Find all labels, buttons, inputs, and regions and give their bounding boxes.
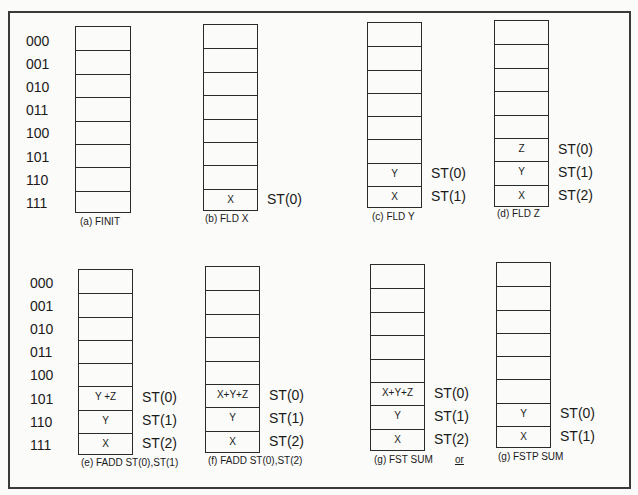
stack-cell: [76, 167, 130, 190]
stack-cell: [79, 340, 132, 363]
stack-box: ZYX: [494, 20, 549, 207]
st-register-label: ST(0): [558, 142, 593, 156]
st-register-label: ST(1): [269, 411, 304, 425]
st-register-label: ST(2): [142, 436, 177, 450]
stack-cell: X: [204, 189, 257, 212]
stack-cell: Y: [371, 405, 424, 428]
stack-cell: [79, 293, 132, 316]
stack-box: X: [203, 24, 258, 211]
stack-cell: [495, 91, 548, 114]
address-label: 001: [26, 57, 49, 71]
stack-cell: [79, 363, 132, 386]
stack-cell: [368, 70, 421, 93]
stack-cell: [206, 337, 259, 360]
st-register-label: ST(2): [558, 188, 593, 202]
stack-cell: X: [368, 186, 421, 209]
stack-cell: [79, 270, 132, 293]
address-label: 000: [26, 34, 49, 48]
stack-cell: [76, 27, 130, 50]
address-label: 011: [26, 103, 48, 117]
address-label: 100: [26, 126, 49, 140]
stack-caption: (a) FINIT: [80, 217, 120, 227]
stack-caption: (g) FST SUM: [374, 455, 433, 465]
stack-cell: [76, 97, 130, 120]
stack-cell: [368, 116, 421, 139]
stack-cell: [206, 267, 259, 290]
stack-cell: [497, 333, 550, 356]
stack-cell: [495, 44, 548, 67]
stack-cell: X: [371, 429, 424, 452]
stack-box: X+Y+ZYX: [205, 266, 260, 453]
stack-cell: X: [497, 426, 550, 449]
stack-cell: [206, 361, 259, 384]
st-register-label: ST(0): [142, 390, 177, 404]
stack-cell: [495, 115, 548, 138]
st-register-label: ST(1): [558, 165, 593, 179]
st-register-label: ST(0): [267, 192, 302, 206]
stack-cell: X+Y+Z: [206, 384, 259, 407]
stack-cell: [371, 265, 424, 288]
st-register-label: ST(1): [142, 413, 177, 427]
address-label: 110: [26, 173, 48, 187]
stack-cell: [371, 359, 424, 382]
stack-cell: [368, 139, 421, 162]
address-label: 001: [30, 299, 53, 313]
stack-cell: [497, 310, 550, 333]
address-label: 110: [30, 415, 52, 429]
stack-cell: [204, 25, 257, 48]
address-label: 010: [26, 80, 49, 94]
stack-cell: [76, 74, 130, 97]
stack-cell: [204, 48, 257, 71]
st-register-label: ST(1): [434, 409, 469, 423]
stack-cell: X: [206, 431, 259, 454]
st-register-label: ST(2): [269, 434, 304, 448]
stack-box: YX: [367, 22, 422, 208]
stack-box: X+Y+ZYX: [370, 264, 425, 451]
stack-cell: X: [495, 185, 548, 208]
stack-caption: (c) FLD Y: [372, 212, 415, 222]
st-register-label: ST(1): [431, 189, 466, 203]
stack-box: Y +ZYX: [78, 269, 133, 455]
address-label: 000: [30, 276, 53, 290]
stack-cell: [497, 379, 550, 402]
stack-caption: (d) FLD Z: [497, 209, 540, 219]
stack-cell: [497, 356, 550, 379]
stack-cell: [206, 314, 259, 337]
stack-box: YX: [496, 262, 551, 448]
stack-cell: [497, 263, 550, 286]
stack-caption: (b) FLD X: [205, 214, 248, 224]
stack-cell: [204, 72, 257, 95]
stack-cell: X+Y+Z: [371, 382, 424, 405]
stack-cell: [497, 286, 550, 309]
stack-caption: (g) FSTP SUM: [498, 452, 563, 462]
st-register-label: ST(1): [560, 429, 595, 443]
address-label: 011: [30, 345, 52, 359]
st-register-label: ST(0): [434, 386, 469, 400]
stack-cell: [368, 46, 421, 69]
address-label: 101: [30, 392, 53, 406]
stack-cell: X: [79, 433, 132, 456]
stack-cell: [204, 165, 257, 188]
stack-cell: [371, 288, 424, 311]
stack-cell: [371, 312, 424, 335]
st-register-label: ST(0): [431, 166, 466, 180]
stack-cell: Y: [368, 163, 421, 186]
stack-cell: [76, 144, 130, 167]
st-register-label: ST(0): [560, 406, 595, 420]
stack-cell: [368, 93, 421, 116]
stack-cell: [204, 95, 257, 118]
stack-cell: [206, 290, 259, 313]
stack-cell: [495, 68, 548, 91]
st-register-label: ST(2): [434, 432, 469, 446]
stack-cell: Z: [495, 138, 548, 161]
address-label: 010: [30, 322, 53, 336]
stack-cell: [76, 191, 130, 214]
address-label: 111: [26, 196, 47, 210]
stack-cell: Y: [495, 161, 548, 184]
stack-cell: [204, 142, 257, 165]
stack-cell: Y +Z: [79, 386, 132, 409]
stack-caption: (e) FADD ST(0),ST(1): [81, 458, 178, 468]
stack-caption: (f) FADD ST(0),ST(2): [208, 456, 302, 466]
stack-cell: [204, 119, 257, 142]
address-label: 101: [26, 150, 49, 164]
